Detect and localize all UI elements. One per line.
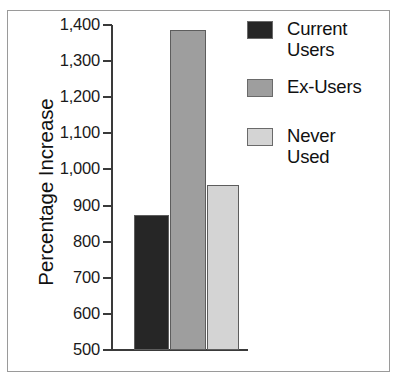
legend-swatch-icon — [247, 79, 273, 97]
chart-figure: Percentage Increase 1,4001,3001,2001,100… — [0, 0, 407, 384]
y-axis-tick-label: 1,200 — [12, 88, 100, 104]
y-axis-tick-label: 600 — [12, 305, 100, 321]
legend-swatch-icon — [247, 21, 273, 39]
legend-item: Ex-Users — [247, 76, 361, 97]
y-axis-tick-mark — [103, 96, 112, 98]
legend-label: Never Used — [287, 125, 335, 167]
y-axis-tick-label: 500 — [12, 341, 100, 357]
y-axis-tick-label: 1,300 — [12, 52, 100, 68]
y-axis-tick-mark — [103, 241, 112, 243]
bar-current-users — [134, 215, 169, 350]
y-axis-tick-mark — [103, 349, 112, 351]
y-axis-tick-label: 900 — [12, 197, 100, 213]
y-axis-tick-mark — [103, 168, 112, 170]
y-axis-tick-mark — [103, 313, 112, 315]
y-axis-line — [111, 25, 113, 351]
y-axis-tick-label: 800 — [12, 233, 100, 249]
legend-swatch-icon — [247, 128, 273, 146]
y-axis-tick-mark — [103, 132, 112, 134]
y-axis-tick-label: 1,100 — [12, 124, 100, 140]
legend-item: Never Used — [247, 125, 335, 167]
y-axis-tick-mark — [103, 277, 112, 279]
legend-item: Current Users — [247, 18, 347, 60]
bar-ex-users — [170, 30, 206, 350]
y-axis-tick-label: 1,000 — [12, 160, 100, 176]
y-axis-tick-label: 1,400 — [12, 16, 100, 32]
y-axis-tick-mark — [103, 60, 112, 62]
y-axis-tick-label: 700 — [12, 269, 100, 285]
legend-label: Current Users — [287, 18, 347, 60]
y-axis-tick-labels: 1,4001,3001,2001,1001,000900800700600500 — [8, 0, 100, 384]
bar-never-used — [207, 185, 239, 350]
legend-label: Ex-Users — [287, 76, 361, 97]
y-axis-tick-mark — [103, 24, 112, 26]
y-axis-tick-mark — [103, 205, 112, 207]
